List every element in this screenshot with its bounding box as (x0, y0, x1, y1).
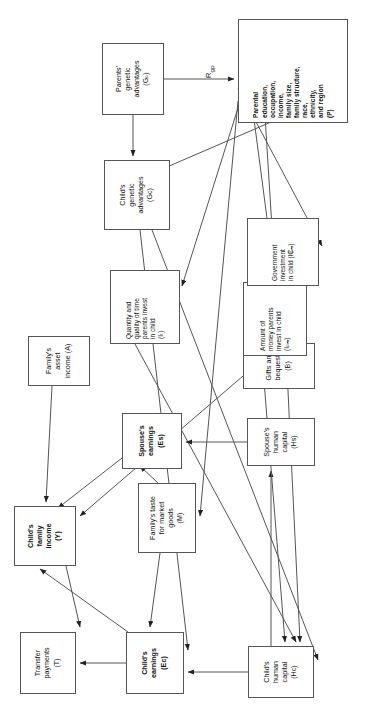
node-transfer-payments[interactable]: Transfer payments (T) (20, 632, 76, 694)
node-time-invested-in-child[interactable]: Quantity and quality of time parents inv… (110, 270, 180, 344)
node-child-genetic-advantages[interactable]: Child's genetic advantages (Gc) (104, 160, 170, 230)
node-family-asset-income[interactable]: Family's asset income (A) (28, 336, 90, 386)
node-label: Family's asset income (A) (45, 344, 72, 379)
node-label: Parents' genetic advantages (Gₚ) (115, 60, 151, 97)
node-label: Parental education, occupation, income, … (252, 67, 333, 118)
node-label: Quantity and quality of time parents inv… (125, 298, 166, 339)
node-parental-background[interactable]: Parental education, occupation, income, … (238, 19, 348, 123)
edge-label-subscript: gp (208, 66, 215, 73)
edge-label-rgp: Rgp (204, 66, 215, 78)
node-family-taste-market-goods[interactable]: Family's taste for market goods (M) (138, 483, 196, 553)
node-label: Child's genetic advantages (Gc) (119, 176, 155, 213)
node-child-human-capital[interactable]: Child's human capital (Hc) (248, 646, 314, 698)
node-spouse-earnings[interactable]: Spouse's earnings (Es) (122, 413, 182, 469)
node-government-investment-in-child[interactable]: Government investment in child (I₵ₘ) (247, 218, 319, 286)
diagram-canvas: Transfer payments (T) Child's earnings (… (0, 0, 376, 716)
node-label: Spouse's human capital (Hs) (263, 427, 299, 456)
node-money-invested-in-child[interactable]: Amount of money parents invest in child … (243, 282, 307, 356)
edge-label-text: R (204, 73, 213, 78)
node-spouse-human-capital[interactable]: Spouse's human capital (Hs) (247, 418, 315, 466)
node-label: Spouse's earnings (Es) (138, 425, 165, 457)
node-label: Child's family income (Y) (27, 523, 63, 548)
node-label: Child's human capital (Hc) (263, 661, 299, 683)
node-parents-genetic-advantages[interactable]: Parents' genetic advantages (Gₚ) (102, 43, 164, 115)
node-label: Amount of money parents invest in child … (259, 307, 292, 351)
node-child-family-income[interactable]: Child's family income (Y) (14, 506, 76, 566)
figure-page: Transfer payments (T) Child's earnings (… (0, 0, 376, 716)
node-label: Child's earnings (Ec) (141, 648, 168, 678)
node-child-earnings[interactable]: Child's earnings (Ec) (126, 632, 184, 694)
node-label: Transfer payments (T) (34, 647, 61, 678)
node-label: Family's taste for market goods (M) (149, 496, 185, 540)
node-label: Government investment in child (I₵ₘ) (271, 243, 295, 281)
